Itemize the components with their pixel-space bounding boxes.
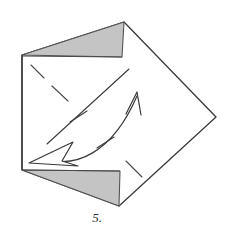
top-shaded-flap (22, 22, 124, 57)
origami-diagram-canvas: 5. (0, 0, 236, 235)
bottom-shaded-flap (22, 170, 120, 206)
step-number: 5. (92, 210, 102, 225)
origami-diagram-figure: 5. (0, 0, 236, 235)
